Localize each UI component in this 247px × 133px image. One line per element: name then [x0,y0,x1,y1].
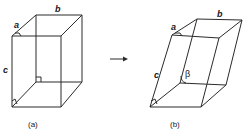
label-c-right: c [154,70,159,80]
label-b-right: b [217,9,223,19]
right-angle-marker [12,99,17,104]
label-c-left: c [3,65,8,75]
caption-b: (b) [170,120,180,129]
label-b-left: b [55,4,61,14]
prism-b [150,19,242,107]
prism-a [12,15,82,107]
right-angle-marker [36,77,41,82]
arrow-right-icon [110,57,128,62]
label-beta: β [185,69,190,79]
label-a-left: a [14,20,19,30]
label-a-right: a [171,22,176,32]
caption-a: (a) [28,120,38,129]
diagram-canvas: a b c (a) a b c β (b) [0,0,247,133]
